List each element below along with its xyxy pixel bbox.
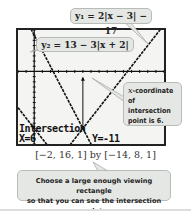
note-line-2: of intersection [128,96,177,116]
note-line-1: -coordinate [133,87,174,95]
note-line-3: point is 6. [128,116,177,126]
equation-y1-callout: y₁ = 2|x − 3| − 17 [70,8,152,24]
equation-y2: y₂ = 13 − 3|x + 2| [41,40,129,50]
tip-callout: Choose a large enough viewing rectangle … [17,170,171,201]
bottom-divider [0,209,191,211]
equation-y2-callout: y₂ = 13 − 3|x + 2| [36,37,134,52]
intersection-note-callout: x-coordinate of intersection point is 6. [123,82,182,126]
window-caption: [−2, 16, 1] by [−14, 8, 1] [0,149,191,160]
tip-line-1: Choose a large enough viewing rectangle [18,176,170,196]
note-callout-leader [92,78,126,103]
